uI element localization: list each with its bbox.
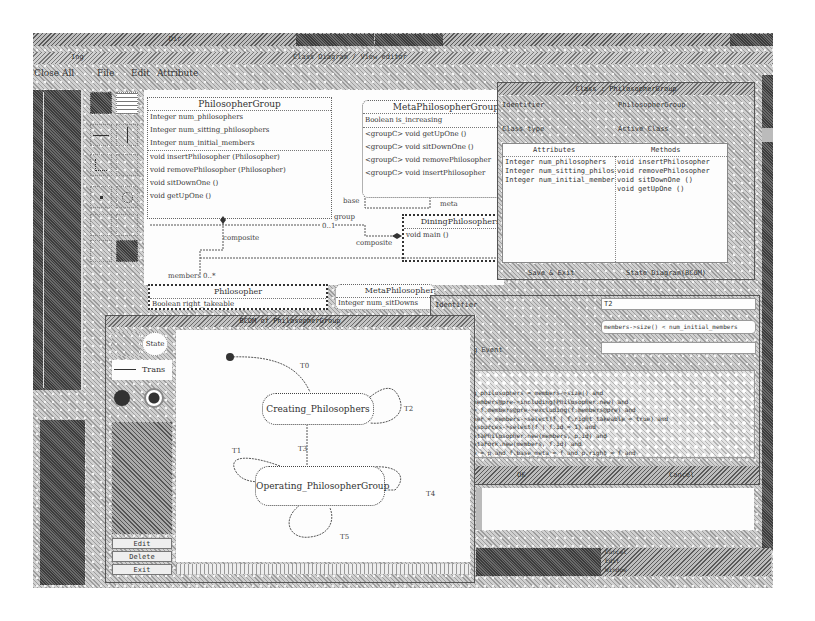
taskbar: Cancel Edit Window (601, 548, 771, 576)
transition-label: T0 (300, 362, 309, 370)
taskbar-item[interactable]: Cancel (605, 548, 627, 555)
state-label: Creating_Philosophers (266, 404, 369, 414)
transition-label: T3 (298, 445, 307, 453)
state-label: Operating_PhilosopherGroup (256, 481, 389, 491)
transition-label: T4 (426, 490, 435, 498)
taskbar-item[interactable]: Edit (605, 557, 619, 564)
state-creating-philosophers[interactable]: Creating_Philosophers (262, 393, 374, 425)
transition-label: T5 (340, 533, 349, 541)
initial-state-icon (226, 353, 234, 361)
taskbar-item[interactable]: Window (605, 566, 627, 573)
transition-label: T1 (232, 447, 241, 455)
transition-label: T2 (404, 405, 413, 413)
taskbar-dark-block (476, 548, 601, 576)
state-operating-philosophergroup[interactable]: Operating_PhilosopherGroup (255, 466, 385, 506)
state-transitions (0, 0, 815, 621)
